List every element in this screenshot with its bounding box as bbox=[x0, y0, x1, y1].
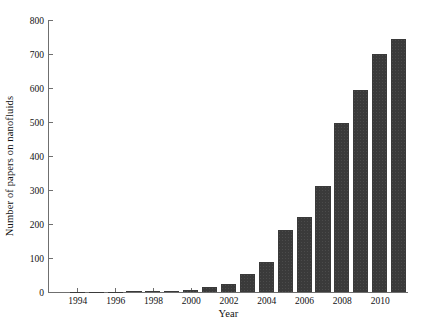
x-tick-label: 2004 bbox=[257, 296, 276, 306]
bar bbox=[259, 262, 274, 292]
y-tick-label: 500 bbox=[30, 118, 44, 128]
y-tick: 200 bbox=[49, 224, 53, 225]
x-tick: 1998 bbox=[153, 292, 154, 296]
x-tick-label: 1998 bbox=[144, 296, 163, 306]
bar bbox=[297, 217, 312, 292]
bar bbox=[221, 284, 236, 292]
y-axis-title: Number of papers on nanofluids bbox=[0, 0, 18, 332]
bar bbox=[315, 186, 330, 292]
y-tick: 600 bbox=[49, 88, 53, 89]
x-axis-title: Year bbox=[49, 308, 408, 319]
y-tick-mark bbox=[49, 224, 53, 225]
x-tick-label: 2008 bbox=[333, 296, 352, 306]
x-tick: 2000 bbox=[191, 292, 192, 296]
x-tick-label: 1994 bbox=[68, 296, 87, 306]
bar bbox=[372, 54, 387, 292]
y-tick-mark bbox=[49, 122, 53, 123]
x-tick: 2008 bbox=[342, 292, 343, 296]
y-tick-label: 700 bbox=[30, 50, 44, 60]
x-tick-label: 2002 bbox=[220, 296, 239, 306]
y-tick-label: 400 bbox=[30, 152, 44, 162]
y-tick-mark bbox=[49, 54, 53, 55]
bar bbox=[240, 274, 255, 292]
y-tick-mark bbox=[49, 292, 53, 293]
bar bbox=[353, 90, 368, 292]
y-tick: 400 bbox=[49, 156, 53, 157]
y-tick-label: 0 bbox=[39, 288, 44, 298]
x-tick: 2006 bbox=[304, 292, 305, 296]
y-tick-mark bbox=[49, 258, 53, 259]
x-tick: 2010 bbox=[380, 292, 381, 296]
y-tick-label: 300 bbox=[30, 186, 44, 196]
y-tick-mark bbox=[49, 88, 53, 89]
x-tick-label: 1996 bbox=[106, 296, 125, 306]
bar bbox=[183, 290, 198, 292]
y-tick-mark bbox=[49, 190, 53, 191]
y-tick-label: 800 bbox=[30, 16, 44, 26]
bar bbox=[164, 291, 179, 292]
y-tick-label: 200 bbox=[30, 220, 44, 230]
bar bbox=[126, 291, 141, 292]
y-tick: 300 bbox=[49, 190, 53, 191]
y-tick-label: 600 bbox=[30, 84, 44, 94]
y-tick: 700 bbox=[49, 54, 53, 55]
y-tick-mark bbox=[49, 156, 53, 157]
x-tick-label: 2000 bbox=[182, 296, 201, 306]
x-tick: 2004 bbox=[266, 292, 267, 296]
plot-area: 0100200300400500600700800 19941996199820… bbox=[49, 20, 408, 292]
x-tick-label: 2006 bbox=[295, 296, 314, 306]
x-tick: 1994 bbox=[77, 292, 78, 296]
y-tick: 500 bbox=[49, 122, 53, 123]
x-tick-label: 2010 bbox=[371, 296, 390, 306]
x-tick: 2002 bbox=[229, 292, 230, 296]
y-tick: 100 bbox=[49, 258, 53, 259]
bar bbox=[391, 39, 406, 292]
y-tick: 0 bbox=[49, 292, 53, 293]
y-tick-mark bbox=[49, 20, 53, 21]
y-tick: 800 bbox=[49, 20, 53, 21]
bar bbox=[278, 230, 293, 292]
bar-chart-figure: Number of papers on nanofluids Year 0100… bbox=[0, 0, 422, 332]
y-tick-label: 100 bbox=[30, 254, 44, 264]
bar bbox=[202, 287, 217, 292]
x-tick: 1996 bbox=[115, 292, 116, 296]
bar bbox=[334, 123, 349, 292]
bar bbox=[145, 291, 160, 292]
